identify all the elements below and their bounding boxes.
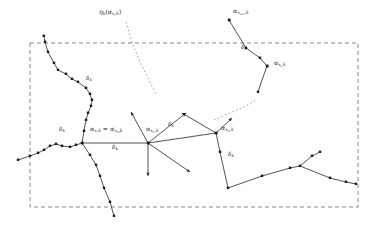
vertex-dots [17, 19, 357, 217]
label-delta-root-edge: δk [112, 145, 118, 151]
label-delta-mid-edge: δk [168, 122, 174, 128]
polyline-x2-down [216, 133, 228, 188]
label-delta-top-right: δk [241, 45, 247, 51]
label-eta-annotation: ηk(αx,k) [99, 9, 121, 17]
label-node-root: αx,k = αx0,k [90, 126, 123, 134]
label-node-x-i-plus-1: αxi+1,k [233, 8, 249, 16]
polyline-upper-left [44, 36, 92, 143]
label-delta-left-upper: δk [86, 76, 92, 82]
label-node-x-2: αx2,k [221, 125, 234, 133]
label-node-x-1: αx1,k [146, 126, 159, 134]
figure-container: ηk(αx,k) αxi+1,k αxi,k αx,k = αx0,k αx1,… [0, 0, 377, 233]
polyline-bottom-right [228, 152, 356, 188]
dashed-domain-rect [30, 43, 358, 207]
label-node-x-i: αxi,k [274, 60, 286, 68]
arrow-bundle-x1 [131, 112, 190, 176]
polyline-root-down [82, 143, 114, 216]
polyline-top-right [229, 20, 267, 92]
label-delta-right-vertical: δk [228, 152, 234, 158]
label-delta-left-lower: δk [59, 127, 65, 133]
diagram-canvas [0, 0, 377, 233]
dotted-leader-eta [126, 22, 156, 94]
dotted-connector-xi [214, 100, 256, 120]
